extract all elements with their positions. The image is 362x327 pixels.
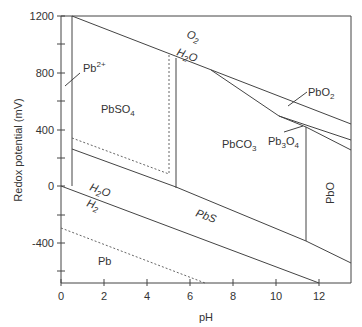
x-axis-title: pH [199, 311, 213, 323]
y-tick-labels: 1200 800 400 0 -400 [30, 10, 54, 249]
boundary-lines [61, 16, 351, 283]
pbo2-pointer [288, 92, 307, 106]
label-pbso4: PbSO4 [101, 103, 135, 118]
x-tick-label: 4 [144, 290, 150, 302]
pb3o4-pointer [284, 126, 303, 132]
label-pbo2: PbO2 [308, 86, 335, 101]
pb-dotted-line [61, 228, 205, 283]
label-h2: H2 [84, 197, 101, 216]
label-pb: Pb [98, 255, 111, 267]
x-tick-label: 6 [187, 290, 193, 302]
y-tick-label: 800 [36, 67, 54, 79]
x-tick-label: 0 [58, 290, 64, 302]
label-pbs: PbS [194, 207, 218, 226]
x-tick-labels: 0 2 4 6 8 10 12 [58, 290, 325, 302]
y-tick-label: -400 [32, 237, 54, 249]
dotted-lines [61, 55, 205, 283]
pbso4-dotted-lower [72, 138, 169, 174]
x-tick-label: 2 [101, 290, 107, 302]
h2o-h2-line [61, 186, 319, 283]
plot-frame [61, 16, 351, 283]
label-o2: O2 [184, 28, 202, 47]
x-tick-label: 12 [313, 290, 325, 302]
label-pb3o4: Pb3O4 [268, 135, 299, 150]
label-pbo: PbO [324, 182, 336, 204]
pb3o4-pbo-line [306, 127, 351, 150]
y-tick-label: 0 [48, 180, 54, 192]
pb3o4-pbco3-line [279, 116, 306, 127]
pourbaix-diagram: 1200 800 400 0 -400 0 2 4 6 8 10 12 pH R… [0, 0, 362, 327]
x-tick-label: 10 [270, 290, 282, 302]
y-tick-label: 400 [36, 124, 54, 136]
region-labels: O2 H2O Pb2+ PbSO4 PbCO3 PbO2 Pb3O4 PbO H… [83, 28, 336, 267]
pbco3-pbo2-line [211, 70, 279, 116]
label-pbco3: PbCO3 [222, 138, 257, 153]
y-tick-label: 1200 [30, 10, 54, 22]
label-pb2plus: Pb2+ [83, 60, 106, 74]
y-axis-title: Redox potential (mV) [12, 98, 24, 201]
x-tick-label: 8 [230, 290, 236, 302]
